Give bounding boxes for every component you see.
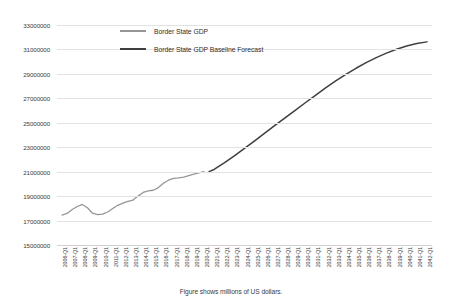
legend: Border State GDPBorder State GDP Baselin… [120, 22, 350, 58]
y-axis-tick-label: 27000000 [23, 95, 50, 102]
gridline [57, 196, 432, 197]
gridline [57, 172, 432, 173]
series-layer [57, 25, 432, 245]
gridline [57, 98, 432, 99]
x-axis-tick-label: 2015-Q1 [153, 247, 159, 267]
series-line [209, 42, 427, 172]
x-axis-tick-label: 2030-Q1 [305, 247, 311, 267]
x-axis-tick-label: 2029-Q1 [295, 247, 301, 267]
x-axis-tick-label: 2012-Q1 [123, 247, 129, 267]
series-line [62, 172, 204, 215]
y-axis-tick-label: 19000000 [23, 193, 50, 200]
legend-line-icon [120, 48, 146, 50]
x-axis-tick-label: 2031-Q1 [315, 247, 321, 267]
x-axis: 2006-Q12007-Q12008-Q12009-Q12010-Q12011-… [57, 247, 432, 287]
x-axis-tick-label: 2041-Q1 [417, 247, 423, 267]
x-axis-tick-label: 2009-Q1 [92, 247, 98, 267]
figure-caption: Figure shows millions of US dollars. [0, 288, 462, 295]
chart-figure: 3300000031000000290000002700000025000000… [0, 0, 462, 305]
x-axis-tick-label: 2011-Q1 [113, 247, 119, 267]
y-axis-tick-label: 29000000 [23, 70, 50, 77]
x-axis-tick-label: 2023-Q1 [234, 247, 240, 267]
x-axis-tick-label: 2028-Q1 [285, 247, 291, 267]
y-axis: 3300000031000000290000002700000025000000… [0, 25, 54, 245]
x-axis-tick-label: 2022-Q1 [224, 247, 230, 267]
x-axis-tick-label: 2014-Q1 [143, 247, 149, 267]
x-axis-tick-label: 2020-Q1 [204, 247, 210, 267]
x-axis-tick-label: 2018-Q1 [184, 247, 190, 267]
x-axis-tick-label: 2013-Q1 [133, 247, 139, 267]
y-axis-tick-label: 17000000 [23, 217, 50, 224]
x-axis-tick-label: 2027-Q1 [275, 247, 281, 267]
x-axis-tick-label: 2006-Q1 [62, 247, 68, 267]
x-axis-tick-label: 2025-Q1 [255, 247, 261, 267]
x-axis-tick-label: 2021-Q1 [214, 247, 220, 267]
x-axis-tick-label: 2016-Q1 [163, 247, 169, 267]
x-axis-tick-label: 2038-Q1 [386, 247, 392, 267]
x-axis-tick-label: 2007-Q1 [72, 247, 78, 267]
x-axis-tick-label: 2008-Q1 [82, 247, 88, 267]
x-axis-tick-label: 2010-Q1 [103, 247, 109, 267]
y-axis-tick-label: 25000000 [23, 119, 50, 126]
x-axis-tick-label: 2042-Q1 [427, 247, 433, 267]
x-axis-tick-label: 2035-Q1 [356, 247, 362, 267]
legend-item[interactable]: Border State GDP [120, 22, 350, 40]
plot-area [57, 25, 432, 245]
gridline [57, 123, 432, 124]
x-axis-tick-label: 2034-Q1 [346, 247, 352, 267]
legend-item[interactable]: Border State GDP Baseline Forecast [120, 40, 350, 58]
gridline [57, 245, 432, 246]
gridline [57, 147, 432, 148]
x-axis-tick-label: 2036-Q1 [366, 247, 372, 267]
legend-item-label: Border State GDP [154, 28, 208, 35]
x-axis-tick-label: 2033-Q1 [336, 247, 342, 267]
y-axis-tick-label: 21000000 [23, 168, 50, 175]
x-axis-tick-label: 2039-Q1 [397, 247, 403, 267]
x-axis-tick-label: 2024-Q1 [245, 247, 251, 267]
x-axis-tick-label: 2017-Q1 [174, 247, 180, 267]
legend-item-label: Border State GDP Baseline Forecast [154, 46, 263, 53]
y-axis-tick-label: 15000000 [23, 242, 50, 249]
gridline [57, 74, 432, 75]
x-axis-tick-label: 2040-Q1 [407, 247, 413, 267]
x-axis-tick-label: 2026-Q1 [265, 247, 271, 267]
y-axis-tick-label: 31000000 [23, 46, 50, 53]
gridline [57, 221, 432, 222]
y-axis-tick-label: 23000000 [23, 144, 50, 151]
x-axis-tick-label: 2032-Q1 [326, 247, 332, 267]
x-axis-tick-label: 2037-Q1 [376, 247, 382, 267]
legend-line-icon [120, 30, 146, 32]
y-axis-tick-label: 33000000 [23, 22, 50, 29]
x-axis-tick-label: 2019-Q1 [194, 247, 200, 267]
